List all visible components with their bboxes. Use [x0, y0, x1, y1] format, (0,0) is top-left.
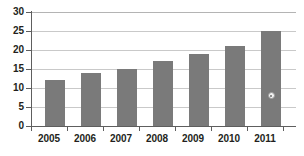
y-axis-label-15: 15: [2, 64, 24, 74]
y-axis-label-30: 30: [2, 7, 24, 17]
bar-2006: [81, 73, 101, 126]
bar-2011: [261, 31, 281, 126]
bar-2005: [45, 80, 65, 126]
x-axis-label-2011: 2011: [242, 133, 288, 145]
y-axis-label-10: 10: [2, 83, 24, 93]
data-point-marker: [268, 92, 275, 99]
y-axis-label-5: 5: [2, 102, 24, 112]
bar-2007: [117, 69, 137, 126]
x-axis-tick-2: [103, 127, 104, 131]
gridline-30: [31, 12, 296, 13]
y-axis-labels: 30 25 20 15 10 5 0: [0, 0, 24, 156]
x-axis-tick-6: [247, 127, 248, 131]
x-axis-tick-5: [211, 127, 212, 131]
bar-2010: [225, 46, 245, 126]
plot-area: [31, 12, 296, 126]
gridline-20: [31, 50, 296, 51]
x-axis-tick-0: [31, 127, 32, 131]
y-axis-line: [31, 11, 32, 127]
x-axis-tick-7: [283, 127, 284, 131]
bar-2008: [153, 61, 173, 126]
bar-chart: 30 25 20 15 10 5 0: [0, 0, 304, 156]
y-axis-label-20: 20: [2, 45, 24, 55]
x-axis-line: [31, 126, 296, 127]
x-axis-tick-1: [67, 127, 68, 131]
x-axis-tick-3: [139, 127, 140, 131]
x-axis-tick-4: [175, 127, 176, 131]
y-axis-label-0: 0: [2, 121, 24, 131]
gridline-25: [31, 31, 296, 32]
y-axis-label-25: 25: [2, 26, 24, 36]
bar-2009: [189, 54, 209, 126]
